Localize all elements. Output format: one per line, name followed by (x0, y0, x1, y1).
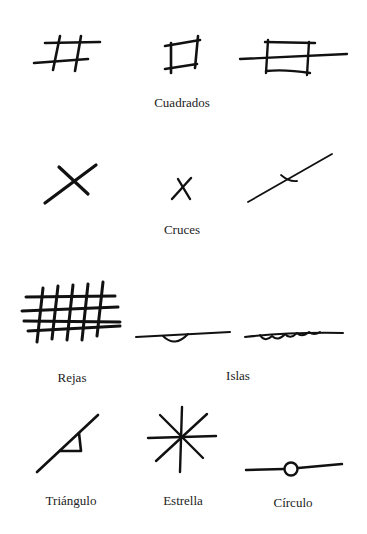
diagram-figures (0, 0, 367, 534)
label-estrella: Estrella (163, 493, 203, 509)
large-cross-icon (45, 165, 96, 203)
small-cross-icon (172, 178, 191, 199)
label-triangulo: Triángulo (46, 493, 97, 509)
line-with-single-loop-icon (136, 332, 230, 342)
line-with-small-cross-icon (248, 154, 332, 202)
square-icon (165, 36, 200, 73)
diagram-canvas: Cuadrados Cruces Rejas Islas Triángulo E… (0, 0, 367, 534)
line-with-circle-icon (246, 463, 342, 476)
label-circulo: Círculo (274, 495, 313, 511)
rectangle-crossed-by-line-icon (240, 40, 347, 75)
label-islas: Islas (226, 368, 250, 384)
line-with-triangle-icon (37, 415, 98, 472)
hash-grid-icon (34, 36, 100, 71)
grid-lattice-icon (22, 282, 120, 342)
label-cruces: Cruces (164, 222, 200, 238)
line-with-multiple-loops-icon (245, 332, 343, 339)
label-rejas: Rejas (58, 370, 87, 386)
label-cuadrados: Cuadrados (154, 95, 210, 111)
eight-point-star-icon (148, 407, 216, 472)
